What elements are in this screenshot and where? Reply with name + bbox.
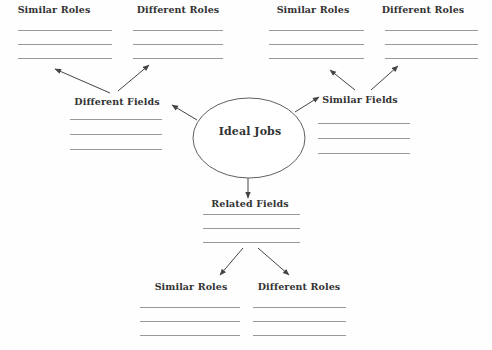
label-bottom-similar-roles: Similar Roles — [155, 281, 228, 292]
blank-line — [269, 17, 364, 31]
blank-line — [70, 135, 162, 150]
arrow-related-fields-to-different-roles — [258, 248, 289, 275]
center-node-label: Ideal Jobs — [219, 125, 281, 138]
blank-line — [269, 31, 364, 45]
blank-line — [70, 120, 162, 135]
blank-line — [269, 45, 364, 59]
blank-line — [133, 45, 223, 59]
blank-line — [203, 201, 300, 215]
ideal-jobs-diagram: Ideal Jobs Similar Roles Different Roles… — [0, 0, 492, 350]
blank-lines-different-fields — [70, 105, 162, 150]
label-similar-fields: Similar Fields — [322, 94, 398, 105]
arrow-different-fields-to-similar-roles — [55, 69, 110, 93]
blank-line — [385, 17, 478, 31]
blank-line — [385, 31, 478, 45]
blank-line — [18, 45, 112, 59]
blank-lines-bottom-similar-roles — [140, 294, 240, 336]
blank-lines-top-right-similar-roles — [269, 17, 364, 59]
blank-line — [140, 294, 240, 308]
arrow-center-to-similar-fields — [295, 97, 319, 112]
blank-lines-top-left-similar-roles — [18, 17, 112, 59]
blank-line — [253, 308, 346, 322]
label-top-right-different-roles: Different Roles — [382, 4, 464, 15]
blank-line — [385, 45, 478, 59]
blank-line — [70, 105, 162, 120]
arrow-center-to-different-fields — [172, 105, 197, 120]
label-top-left-similar-roles: Similar Roles — [18, 4, 91, 15]
arrow-similar-fields-to-similar-roles — [330, 70, 355, 90]
blank-lines-related-fields — [203, 201, 300, 243]
blank-line — [318, 124, 410, 139]
blank-line — [318, 109, 410, 124]
blank-line — [203, 215, 300, 229]
blank-line — [18, 17, 112, 31]
blank-line — [140, 308, 240, 322]
blank-line — [203, 229, 300, 243]
blank-lines-bottom-different-roles — [253, 294, 346, 336]
arrow-different-fields-to-different-roles — [118, 65, 149, 91]
blank-line — [140, 322, 240, 336]
center-node-ellipse — [193, 98, 305, 178]
blank-lines-top-left-different-roles — [133, 17, 223, 59]
label-bottom-different-roles: Different Roles — [258, 281, 340, 292]
label-top-left-different-roles: Different Roles — [137, 4, 219, 15]
blank-lines-top-right-different-roles — [385, 17, 478, 59]
blank-line — [133, 31, 223, 45]
blank-line — [253, 294, 346, 308]
blank-line — [18, 31, 112, 45]
blank-line — [133, 17, 223, 31]
blank-line — [253, 322, 346, 336]
arrow-similar-fields-to-different-roles — [371, 66, 398, 90]
blank-lines-similar-fields — [318, 109, 410, 154]
label-top-right-similar-roles: Similar Roles — [277, 4, 350, 15]
blank-line — [318, 139, 410, 154]
arrow-related-fields-to-similar-roles — [220, 248, 243, 275]
